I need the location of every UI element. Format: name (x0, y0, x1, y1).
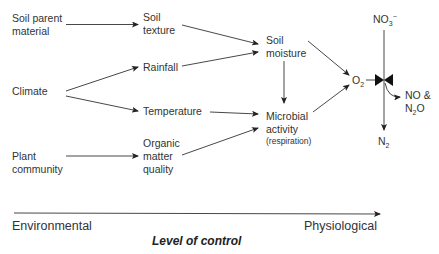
node-plant-community: Plant community (12, 150, 63, 176)
edge-temperature-to-microbial (210, 112, 258, 114)
node-no-n2o: NO & N2O (405, 89, 431, 115)
chem-base: N (378, 135, 386, 147)
node-organic-matter-quality: Organic matter quality (143, 137, 180, 176)
chem-base: NO (373, 13, 389, 25)
node-label-line: texture (143, 24, 175, 37)
node-label-line: Temperature (143, 105, 202, 118)
axis-title: Level of control (152, 234, 241, 248)
node-label-line: Soil parent (12, 12, 62, 25)
node-label-line: N2O (405, 102, 431, 115)
node-label-line: material (12, 25, 62, 38)
level-of-control-axis (14, 213, 380, 214)
node-label-line: Soil (143, 11, 175, 24)
node-label-line: activity (266, 123, 311, 136)
axis-left-label: Environmental (12, 219, 92, 233)
node-label-line: Rainfall (143, 61, 178, 74)
node-microbial-activity: Microbial activity (respiration) (266, 110, 311, 147)
chem-base: N (405, 102, 413, 114)
node-climate: Climate (12, 85, 48, 98)
node-no3: NO3− (373, 13, 397, 26)
edge-organic-to-microbial (182, 128, 258, 155)
node-label-line: quality (143, 163, 180, 176)
node-label-line: NO & (405, 89, 431, 102)
diagram-arrows (0, 0, 439, 254)
chem-sup: − (393, 13, 397, 20)
node-rainfall: Rainfall (143, 61, 178, 74)
node-temperature: Temperature (143, 105, 202, 118)
node-soil-texture: Soil texture (143, 11, 175, 37)
edge-microbial-to-o2 (313, 85, 349, 112)
axis-right-label: Physiological (304, 219, 377, 233)
node-n2: N2 (378, 135, 390, 148)
node-label-line: Soil (266, 34, 306, 47)
node-label-line: Organic (143, 137, 180, 150)
node-o2: O2 (352, 74, 364, 87)
edge-rainfall-to-moisture (182, 52, 258, 66)
edge-climate-to-temperature (66, 96, 138, 111)
node-note: (respiration) (266, 136, 311, 147)
chem-sub: 2 (360, 81, 364, 88)
node-label-line: Climate (12, 85, 48, 98)
node-label-line: matter (143, 150, 180, 163)
node-soil-moisture: Soil moisture (266, 34, 306, 60)
chem-rest: O (417, 102, 425, 114)
node-label-line: Plant (12, 150, 63, 163)
chem-sub: 2 (386, 142, 390, 149)
chem-sub: 3 (389, 20, 393, 27)
node-soil-parent-material: Soil parent material (12, 12, 62, 38)
edge-texture-to-moisture (182, 25, 258, 44)
node-label-line: moisture (266, 47, 306, 60)
edge-moisture-to-o2 (308, 41, 349, 75)
edge-climate-to-rainfall (66, 67, 138, 91)
node-label-line: Microbial (266, 110, 311, 123)
chem-base: O (352, 74, 360, 86)
node-label-line: community (12, 163, 63, 176)
